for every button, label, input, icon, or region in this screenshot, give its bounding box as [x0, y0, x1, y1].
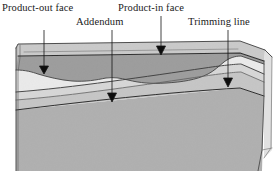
label-addendum: Addendum	[76, 16, 123, 28]
figure-root: Product-out face Addendum Product-in fac…	[0, 0, 276, 171]
leader-product-in-face	[157, 16, 166, 55]
label-trimming-line: Trimming line	[188, 16, 250, 28]
label-product-out-face: Product-out face	[2, 2, 73, 14]
label-product-in-face: Product-in face	[118, 2, 184, 14]
